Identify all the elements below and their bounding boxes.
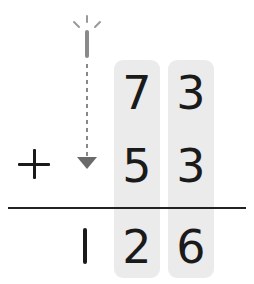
- sum-hundreds-digit: [83, 228, 87, 264]
- carry-highlight-icon: [70, 14, 110, 64]
- sum-tens-digit: 2: [114, 224, 160, 270]
- carry-arrow-dashed-line: [86, 64, 88, 158]
- addend1-tens-digit: 7: [114, 70, 160, 116]
- sum-line: [8, 207, 246, 209]
- plus-sign: [18, 147, 54, 183]
- addend1-ones-digit: 3: [168, 70, 214, 116]
- addend2-ones-digit: 3: [168, 143, 214, 189]
- sum-ones-digit: 6: [168, 224, 214, 270]
- carry-arrow-head-icon: [77, 157, 97, 169]
- addend2-tens-digit: 5: [114, 143, 160, 189]
